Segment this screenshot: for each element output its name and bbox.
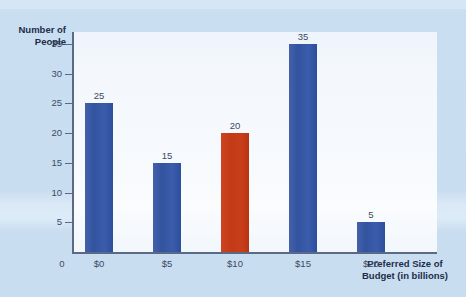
x-axis-category-label: $0 — [73, 258, 125, 269]
background-top-strip — [0, 0, 466, 9]
y-axis-tick-mark — [65, 74, 73, 75]
bar-group: 20 — [209, 32, 261, 252]
x-axis-category-label: $15 — [277, 258, 329, 269]
y-axis-tick-mark — [65, 133, 73, 134]
bar-group: 35 — [277, 32, 329, 252]
y-axis-tick-label: 25 — [0, 98, 62, 108]
y-axis-tick-label-text: 30 — [38, 69, 62, 79]
bar-value-label: 15 — [141, 150, 193, 161]
y-axis-tick-mark — [65, 103, 73, 104]
bar[interactable] — [357, 222, 385, 252]
y-axis-tick-label-text: 10 — [38, 188, 62, 198]
bar-value-label: 20 — [209, 120, 261, 131]
bar-group: 25 — [73, 32, 125, 252]
y-axis-tick-mark — [65, 163, 73, 164]
y-axis-tick-label-text: 25 — [38, 98, 62, 108]
bar[interactable] — [85, 103, 113, 252]
y-axis-tick-label: 5 — [0, 217, 62, 227]
y-axis-tick-label: 20 — [0, 128, 62, 138]
y-axis-tick-mark — [65, 193, 73, 194]
y-axis-tick-label: 15 — [0, 158, 62, 168]
y-axis-tick-label: 10 — [0, 188, 62, 198]
x-axis-line — [72, 252, 437, 254]
chart-figure: 25 15 20 35 5 5101520253035 Number of Pe… — [0, 0, 466, 297]
y-axis-title-line2: People — [6, 36, 66, 48]
bar-group: 5 — [345, 32, 397, 252]
bar-group: 15 — [141, 32, 193, 252]
y-axis-tick-label-text: 20 — [38, 128, 62, 138]
bar-value-label: 35 — [277, 31, 329, 42]
bar[interactable] — [153, 163, 181, 252]
bar-value-label: 5 — [345, 209, 397, 220]
x-axis-category-label: $20 — [345, 258, 397, 269]
y-axis-tick-label-text: 15 — [38, 158, 62, 168]
bar-highlighted[interactable] — [221, 133, 249, 252]
y-axis-tick-label: 30 — [0, 69, 62, 79]
y-axis-line — [72, 32, 74, 253]
plot-area: 25 15 20 35 5 — [73, 32, 437, 252]
y-axis-title-line1: Number of — [6, 24, 66, 36]
bar[interactable] — [289, 44, 317, 252]
x-axis-category-label: $5 — [141, 258, 193, 269]
bar-value-label: 25 — [73, 90, 125, 101]
origin-label: 0 — [52, 258, 72, 269]
y-axis-tick-mark — [65, 222, 73, 223]
x-axis-title-line2: Budget (in billions) — [346, 270, 464, 282]
x-axis-category-label: $10 — [209, 258, 261, 269]
y-axis-tick-label-text: 5 — [38, 217, 62, 227]
y-axis-tick-mark — [65, 44, 73, 45]
y-axis-title: Number of People — [6, 24, 66, 47]
